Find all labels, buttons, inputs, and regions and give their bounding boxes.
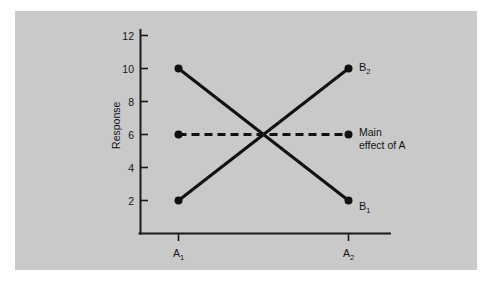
plot-canvas — [0, 0, 489, 285]
data-point-a1-10 — [175, 65, 183, 73]
x-tick-label-a1-sub: 1 — [180, 253, 184, 262]
x-tick-label-a2-base: A — [343, 247, 350, 259]
y-tick-label-2: 2 — [112, 196, 134, 207]
series-label-b2-sub: 2 — [366, 67, 370, 76]
data-point-a2-6 — [345, 131, 353, 139]
annotation-line-2: effect of A — [359, 139, 406, 152]
data-point-a2-10 — [345, 65, 353, 73]
y-tick-label-10: 10 — [112, 64, 134, 75]
x-tick-label-a1-base: A — [173, 247, 180, 259]
series-label-b1-sub: 1 — [366, 206, 370, 215]
x-tick-label-a2: A2 — [328, 248, 369, 262]
data-point-a2-2 — [345, 197, 353, 205]
y-axis-title: Response — [111, 83, 122, 167]
annotation-line-1: Main — [359, 126, 406, 139]
x-tick-label-a2-sub: 2 — [350, 253, 354, 262]
data-point-a1-2 — [175, 197, 183, 205]
y-tick-label-12: 12 — [112, 31, 134, 42]
series-label-b1: B1 — [359, 201, 371, 215]
annotation-main-effect-of-a: Main effect of A — [359, 126, 406, 153]
series-label-b2: B2 — [359, 62, 371, 76]
data-point-a1-6 — [175, 131, 183, 139]
figure-root: 12 10 8 6 4 2 Response A1 A2 B2 B1 Main … — [0, 0, 489, 285]
x-tick-label-a1: A1 — [158, 248, 199, 262]
